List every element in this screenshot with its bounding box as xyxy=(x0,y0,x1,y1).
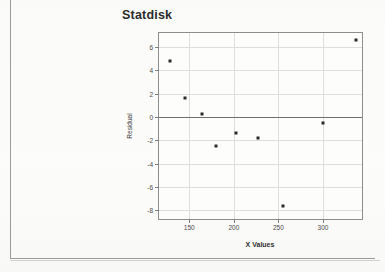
x-tick-label: 150 xyxy=(184,224,195,231)
y-tick-label: 6 xyxy=(149,44,153,51)
y-tick-mark xyxy=(155,47,159,48)
scatter-point xyxy=(168,60,171,63)
plot-area: 6420-2-4-6-8 150200250300 xyxy=(158,32,363,220)
y-tick-label: 4 xyxy=(149,67,153,74)
y-tick-label: -8 xyxy=(147,207,153,214)
gridline-vertical xyxy=(189,33,190,219)
y-tick-label: -2 xyxy=(147,137,153,144)
scatter-point xyxy=(183,97,186,100)
gridline-vertical xyxy=(323,33,324,219)
x-tick-label: 200 xyxy=(228,224,239,231)
scatter-point xyxy=(354,39,357,42)
chart-title: Statdisk xyxy=(122,8,172,22)
y-tick-mark xyxy=(155,140,159,141)
x-tick-mark xyxy=(278,219,279,223)
y-tick-label: -6 xyxy=(147,184,153,191)
x-tick-label: 300 xyxy=(318,224,329,231)
zero-reference-line xyxy=(159,117,362,118)
y-tick-mark xyxy=(155,70,159,71)
y-tick-label: 0 xyxy=(149,114,153,121)
scatter-point xyxy=(234,131,237,134)
scatter-point xyxy=(215,145,218,148)
page-border-left xyxy=(10,0,11,259)
x-axis-title: X Values xyxy=(246,241,275,248)
scatter-point xyxy=(322,121,325,124)
y-tick-mark xyxy=(155,94,159,95)
x-tick-label: 250 xyxy=(273,224,284,231)
x-tick-mark xyxy=(323,219,324,223)
y-axis-title: Residual xyxy=(126,113,133,138)
x-tick-mark xyxy=(189,219,190,223)
y-tick-mark xyxy=(155,164,159,165)
scatter-point xyxy=(200,113,203,116)
y-tick-label: 2 xyxy=(149,90,153,97)
scatter-point xyxy=(281,204,284,207)
page-border-bottom-shadow xyxy=(10,260,380,261)
y-tick-label: -4 xyxy=(147,160,153,167)
gridline-vertical xyxy=(278,33,279,219)
page-border-bottom xyxy=(10,258,375,259)
scatter-point xyxy=(256,136,259,139)
y-tick-mark xyxy=(155,210,159,211)
gridline-vertical xyxy=(234,33,235,219)
y-tick-mark xyxy=(155,187,159,188)
x-tick-mark xyxy=(234,219,235,223)
